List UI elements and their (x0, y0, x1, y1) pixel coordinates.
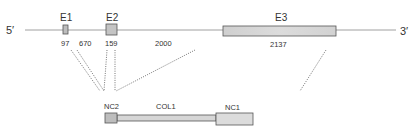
mapping-line-e1-left (71, 50, 100, 91)
col1-domain (117, 115, 216, 121)
five-prime-label: 5′ (6, 24, 14, 36)
col1-label: COL1 (156, 102, 176, 111)
mapping-line-e2-left (104, 50, 107, 91)
mapping-line-e3-start (116, 50, 195, 91)
exon-1-label: E1 (60, 12, 73, 23)
exon-1-size: 97 (61, 39, 69, 48)
mapping-line-e3-end (300, 50, 326, 91)
intron-2-size: 2000 (155, 39, 172, 48)
exon-2-size: 159 (105, 39, 118, 48)
nc1-label: NC1 (225, 103, 240, 112)
nc1-domain (216, 113, 253, 125)
nc2-label: NC2 (104, 102, 119, 111)
mapping-line-e1-right (77, 50, 104, 91)
exon-2-box (106, 24, 117, 35)
exon-3-box (223, 26, 336, 36)
exon-3-size: 2137 (270, 40, 287, 49)
intron-1-size: 670 (79, 39, 92, 48)
gene-structure-diagram: 5′ 3′ E1 97 670 E2 159 2000 E3 2137 NC2 … (0, 0, 419, 130)
exon-3-label: E3 (275, 12, 288, 23)
exon-2-label: E2 (106, 12, 119, 23)
exon-1-box (63, 25, 68, 34)
three-prime-label: 3′ (400, 25, 408, 37)
mapping-lines (71, 50, 326, 91)
nc2-domain (105, 113, 117, 123)
